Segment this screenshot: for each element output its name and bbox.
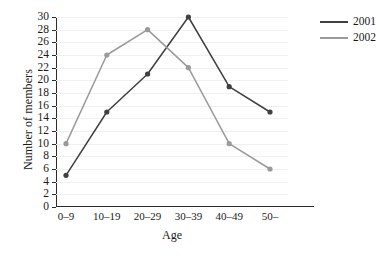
y-tick-label: 12 bbox=[38, 125, 50, 137]
chart-legend: 2001 2002 bbox=[320, 14, 376, 46]
x-tick-label: 50– bbox=[262, 211, 279, 222]
y-tick-label: 26 bbox=[38, 37, 50, 49]
y-tick-label: 2 bbox=[43, 189, 49, 201]
y-tick-label: 22 bbox=[38, 62, 50, 74]
data-point-2001-0–9 bbox=[63, 173, 68, 178]
data-point-2001-30–39 bbox=[186, 14, 191, 19]
y-tick-label: 0 bbox=[43, 201, 49, 213]
y-tick-mark bbox=[52, 207, 56, 208]
y-tick-label: 30 bbox=[38, 11, 50, 23]
y-tick-label: 6 bbox=[43, 163, 49, 175]
data-point-2002-40–49 bbox=[227, 141, 232, 146]
y-tick-label: 14 bbox=[38, 113, 50, 125]
data-point-2001-20–29 bbox=[145, 71, 150, 76]
line-chart: Number of members 0246810121416182022242… bbox=[0, 0, 385, 266]
data-point-2002-10–19 bbox=[104, 52, 109, 57]
x-tick-label: 10–19 bbox=[93, 211, 121, 222]
legend-label-2001: 2001 bbox=[353, 16, 376, 28]
data-point-2001-10–19 bbox=[104, 109, 109, 114]
data-point-2002-50– bbox=[267, 166, 272, 171]
legend-swatch-2002 bbox=[320, 37, 348, 39]
legend-swatch-2001 bbox=[320, 21, 348, 23]
y-tick-label: 24 bbox=[38, 49, 50, 61]
y-tick-label: 16 bbox=[38, 100, 50, 112]
y-tick-label: 8 bbox=[43, 151, 49, 163]
x-tick-label: 0–9 bbox=[58, 211, 75, 222]
y-tick-label: 18 bbox=[38, 87, 50, 99]
plot-area: 024681012141618202224262830 0–910–1920–2… bbox=[56, 17, 288, 207]
series-layer bbox=[56, 17, 288, 207]
y-axis-title: Number of members bbox=[21, 40, 36, 200]
legend-item-2001[interactable]: 2001 bbox=[320, 14, 376, 30]
x-axis-title: Age bbox=[56, 228, 288, 243]
x-tick-label: 20–29 bbox=[134, 211, 162, 222]
data-point-2002-20–29 bbox=[145, 27, 150, 32]
x-tick-label: 40–49 bbox=[215, 211, 243, 222]
legend-item-2002[interactable]: 2002 bbox=[320, 30, 376, 46]
y-tick-label: 10 bbox=[38, 138, 50, 150]
x-tick-label: 30–39 bbox=[175, 211, 203, 222]
y-tick-label: 28 bbox=[38, 24, 50, 36]
y-tick-label: 20 bbox=[38, 75, 50, 87]
data-point-2001-50– bbox=[267, 109, 272, 114]
y-tick-label: 4 bbox=[43, 176, 49, 188]
series-line-2001 bbox=[66, 17, 270, 175]
data-point-2002-0–9 bbox=[63, 141, 68, 146]
data-point-2001-40–49 bbox=[227, 84, 232, 89]
legend-label-2002: 2002 bbox=[353, 32, 376, 44]
data-point-2002-30–39 bbox=[186, 65, 191, 70]
series-line-2002 bbox=[66, 30, 270, 169]
